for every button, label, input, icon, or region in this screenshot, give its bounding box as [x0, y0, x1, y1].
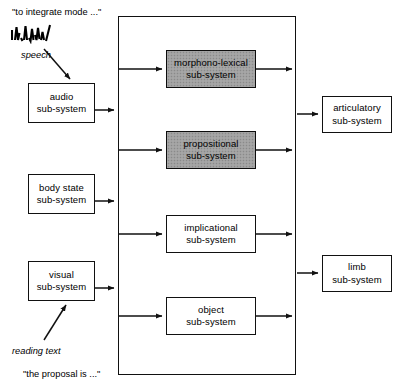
reading-text-label: reading text	[12, 346, 61, 356]
limb-box-line1: limb	[348, 261, 366, 274]
visual-box-line1: visual	[49, 269, 74, 282]
audio-sub-system-box[interactable]: audio sub-system	[28, 83, 95, 123]
visual-box-line2: sub-system	[37, 281, 87, 294]
implicational-box-line2: sub-system	[186, 234, 236, 247]
visual-sub-system-box[interactable]: visual sub-system	[28, 261, 95, 301]
object-sub-system-box[interactable]: object sub-system	[166, 297, 256, 335]
propositional-sub-system-box[interactable]: propositional sub-system	[166, 131, 256, 169]
object-box-line1: object	[198, 304, 224, 317]
limb-box-line2: sub-system	[332, 274, 382, 287]
audio-box-line1: audio	[50, 91, 74, 104]
speech-waveform-icon	[11, 24, 55, 44]
diagram-canvas: "to integrate mode ..." speech reading t…	[0, 0, 413, 392]
body-state-sub-system-box[interactable]: body state sub-system	[28, 174, 95, 214]
propositional-box-line2: sub-system	[186, 150, 236, 163]
audio-box-line2: sub-system	[37, 103, 87, 116]
implicational-sub-system-box[interactable]: implicational sub-system	[166, 215, 256, 253]
articulatory-box-line2: sub-system	[332, 115, 382, 128]
morphono-lexical-box-line2: sub-system	[186, 69, 236, 82]
body-state-box-line2: sub-system	[37, 194, 87, 207]
arrow-reading-text-to-visual	[44, 305, 66, 340]
articulatory-sub-system-box[interactable]: articulatory sub-system	[322, 96, 392, 133]
speech-quote-label: "to integrate mode ..."	[12, 7, 101, 17]
morphono-lexical-box-line1: morphono-lexical	[174, 57, 248, 70]
limb-sub-system-box[interactable]: limb sub-system	[322, 255, 392, 292]
body-state-box-line1: body state	[39, 182, 84, 195]
reading-quote-label: "the proposal is ..."	[23, 369, 100, 379]
morphono-lexical-sub-system-box[interactable]: morphono-lexical sub-system	[166, 50, 256, 88]
articulatory-box-line1: articulatory	[333, 102, 381, 115]
implicational-box-line1: implicational	[184, 222, 238, 235]
speech-label: speech	[21, 50, 51, 60]
object-box-line2: sub-system	[186, 316, 236, 329]
propositional-box-line1: propositional	[183, 138, 238, 151]
